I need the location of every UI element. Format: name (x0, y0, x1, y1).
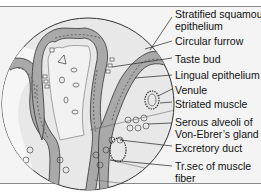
label-lingual-epithelium: Lingual epithelium (175, 69, 260, 81)
label-excretory-duct: Excretory duct (175, 142, 242, 154)
label-venule: Venule (175, 84, 207, 96)
label-line: Serous alveoli of (175, 116, 259, 128)
label-serous-alveoli: Serous alveoli of Von-Ebrer’s gland (175, 116, 259, 140)
label-line: fiber (175, 172, 251, 184)
label-stratified-squamous-epithelium: Stratified squamous epithelium (175, 8, 261, 32)
label-line: Stratified squamous (175, 8, 261, 20)
label-muscle-fiber: Tr.sec of muscle fiber (175, 160, 251, 184)
label-taste-bud: Taste bud (175, 53, 221, 65)
label-striated-muscle: Striated muscle (175, 98, 247, 110)
label-line: Tr.sec of muscle (175, 160, 251, 172)
label-line: Striated muscle (175, 98, 247, 110)
label-line: Lingual epithelium (175, 69, 260, 81)
label-line: Circular furrow (175, 35, 243, 47)
label-line: Taste bud (175, 53, 221, 65)
label-line: epithelium (175, 20, 261, 32)
label-line: Excretory duct (175, 142, 242, 154)
label-line: Venule (175, 84, 207, 96)
label-line: Von-Ebrer’s gland (175, 128, 259, 140)
label-circular-furrow: Circular furrow (175, 35, 243, 47)
